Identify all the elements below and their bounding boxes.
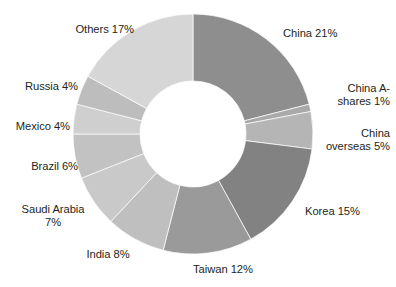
slice-label-saudi-arabia: Saudi Arabia 7%: [12, 203, 94, 229]
slice-label-russia: Russia 4%: [2, 80, 78, 93]
slice-label-china-overseas: China overseas 5%: [290, 127, 390, 153]
slice-label-brazil: Brazil 6%: [2, 160, 78, 173]
donut-slices: [73, 14, 313, 254]
slice-label-taiwan: Taiwan 12%: [168, 263, 278, 276]
donut-chart: China 21% China A- shares 1% China overs…: [0, 0, 396, 287]
slice-label-mexico: Mexico 4%: [2, 120, 70, 133]
slice-label-korea: Korea 15%: [305, 205, 393, 218]
slice-label-china-a-shares: China A- shares 1%: [300, 82, 390, 108]
slice-label-others: Others 17%: [58, 23, 134, 36]
slice-label-india: India 8%: [72, 248, 144, 261]
slice-label-china: China 21%: [283, 27, 391, 40]
